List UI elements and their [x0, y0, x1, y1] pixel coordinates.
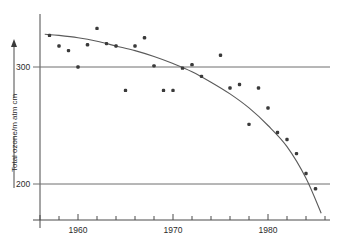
fit-curve [45, 34, 321, 213]
data-point [228, 86, 231, 89]
scatter-points [48, 27, 317, 191]
data-point [124, 89, 127, 92]
x-axis-ticks [40, 214, 325, 220]
x-tick-label-1970: 1970 [164, 225, 183, 235]
data-point [86, 43, 89, 46]
data-point [295, 152, 298, 155]
x-tick-label-1980: 1980 [259, 225, 278, 235]
data-point [247, 123, 250, 126]
data-point [190, 63, 193, 66]
data-point [171, 89, 174, 92]
data-point [257, 86, 260, 89]
data-point [48, 34, 51, 37]
data-point [133, 44, 136, 47]
x-tick-label-1960: 1960 [69, 225, 88, 235]
data-point [114, 44, 117, 47]
data-point [67, 49, 70, 52]
data-point [285, 138, 288, 141]
data-point [181, 66, 184, 69]
y-axis-title: Total ozone/m atm cm [10, 93, 19, 172]
data-point [304, 172, 307, 175]
data-point [57, 44, 60, 47]
data-point [200, 75, 203, 78]
chart-svg: Total ozone/m atm cm 300 200 [0, 0, 338, 249]
data-point [314, 187, 317, 190]
ozone-chart: Total ozone/m atm cm 300 200 [0, 0, 338, 249]
y-tick-label-300: 300 [16, 62, 30, 72]
gridlines [33, 67, 330, 184]
data-point [219, 54, 222, 57]
data-point [105, 42, 108, 45]
data-point [152, 64, 155, 67]
data-point [95, 27, 98, 30]
data-point [238, 83, 241, 86]
data-point [143, 36, 146, 39]
data-point [276, 131, 279, 134]
data-point [162, 89, 165, 92]
y-tick-label-200: 200 [16, 179, 30, 189]
data-point [76, 65, 79, 68]
data-point [266, 106, 269, 109]
